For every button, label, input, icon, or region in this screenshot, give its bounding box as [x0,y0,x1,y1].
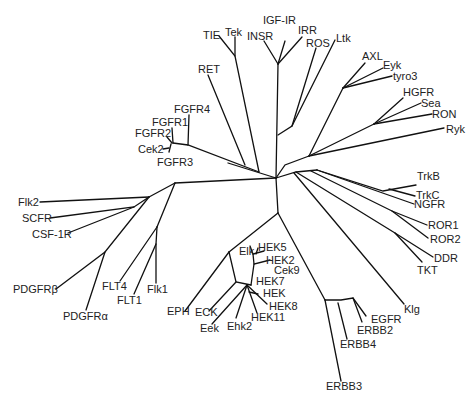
label-insr: INSR [247,30,273,42]
label-pdgfra: PDGFRα [63,310,109,322]
branch-fgfr1 [172,128,173,143]
branch-eph [185,252,229,311]
branch-egfr [325,298,366,316]
branch-fgfr4 [188,115,189,145]
branch-tyro3 [343,76,392,88]
branch-trkc [389,189,415,196]
label-fgfr2: FGFR2 [135,127,171,139]
label-fgfr3: FGFR3 [157,156,193,168]
label-hek7: HEK7 [256,275,285,287]
label-axl: AXL [362,50,383,62]
branch-lower-stem [276,178,278,213]
label-igf-ir: IGF-IR [263,14,296,26]
label-ron: RON [432,108,457,120]
label-ddr: DDR [434,252,458,264]
branch [228,163,276,178]
label-erbb2: ERBB2 [357,324,393,336]
branch-axl-stem [309,88,343,156]
tree-canvas: TIE Tek INSR IGF-IR IRR ROS Ltk AXL Eyk … [0,0,476,404]
branch-erbb3 [325,300,341,381]
label-ror2: ROR2 [430,233,461,245]
branch-erbb4 [338,303,347,339]
label-tyro3: tyro3 [393,70,417,82]
branch-group-right-upper [276,63,444,178]
label-tek: Tek [225,26,243,38]
branch-ngfr [317,170,414,204]
branch-pdgfr-stem [149,183,175,197]
label-trkb: TrkB [417,170,440,182]
label-flt4: FLT4 [102,280,127,292]
branch-insr [264,41,278,64]
label-irr: IRR [298,24,317,36]
label-klg: Klg [404,303,420,315]
branch-ret [208,75,245,165]
branch-ryk [309,128,444,156]
branch-ltk [292,40,335,126]
label-hek11: HEK11 [251,311,285,323]
branch-eek [212,285,247,324]
label-elk: Elk [239,245,255,257]
branch-sea [374,103,421,124]
branch-flk2 [40,197,149,202]
leaf-labels: TIE Tek INSR IGF-IR IRR ROS Ltk AXL Eyk … [13,14,465,392]
label-ltk: Ltk [336,32,351,44]
label-flk1: Flk1 [147,283,168,295]
branch-erbb2 [353,298,362,322]
label-erbb4: ERBB4 [340,338,376,350]
label-csf1r: CSF-1R [32,228,72,240]
branch-ros [278,48,316,135]
label-tie: TIE [203,29,220,41]
branch-hgfr-stem [309,124,374,156]
label-fgfr4: FGFR4 [174,103,210,115]
label-tkt: TKT [417,264,438,276]
label-ehk2: Ehk2 [227,320,252,332]
label-scfr: SCFR [22,212,52,224]
phylogenetic-tree-diagram: TIE Tek INSR IGF-IR IRR ROS Ltk AXL Eyk … [0,0,476,404]
branch-vegfr-stem [157,183,175,227]
branch [276,156,309,178]
label-eck: ECK [195,306,218,318]
label-eek: Eek [200,322,219,334]
label-hek5: HEK5 [258,241,287,253]
label-ret: RET [198,63,220,75]
label-ngfr: NGFR [414,198,445,210]
label-eph: EPH [167,305,190,317]
branch-left-stem [175,178,276,183]
branch-insulin-stem [276,64,278,178]
label-cek2: Cek2 [138,143,164,155]
label-hek: HEK [263,287,286,299]
label-flk2: Flk2 [18,196,39,208]
branch-group-right-lower [276,170,433,304]
label-erbb3: ERBB3 [326,380,362,392]
branch-klg [294,173,404,304]
branch-eyk [343,68,383,88]
label-pdgfrb: PDGFRβ [13,283,58,295]
branch-cek2 [163,148,169,149]
label-ros: ROS [306,37,330,49]
label-flt1: FLT1 [117,294,142,306]
label-ror1: ROR1 [428,219,459,231]
branch-ehk2 [236,285,247,318]
branch-axl [343,63,365,88]
branch-group-upper [208,36,335,178]
label-ryk: Ryk [446,123,465,135]
